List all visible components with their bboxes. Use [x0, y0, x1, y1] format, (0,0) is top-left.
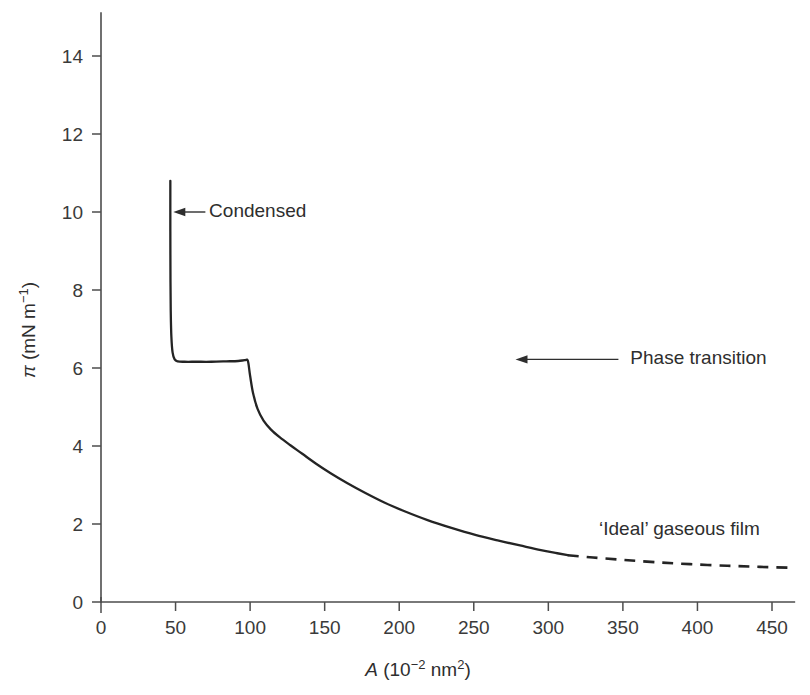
x-axis-tick-label: 350 — [607, 617, 639, 638]
y-axis-tick-label: 12 — [62, 124, 83, 145]
surface-pressure-area-isotherm-chart: 02468101214050100150200250300350400450 C… — [0, 0, 810, 695]
annotation-arrow-head-condensed — [173, 208, 185, 216]
x-axis-tick-label: 150 — [309, 617, 341, 638]
x-axis-tick-label: 400 — [682, 617, 714, 638]
x-axis-tick-label: 450 — [756, 617, 788, 638]
y-axis-tick-label: 10 — [62, 202, 83, 223]
x-axis-tick-label: 0 — [96, 617, 107, 638]
y-axis-tick-label: 0 — [72, 592, 83, 613]
y-axis-tick-label: 6 — [72, 358, 83, 379]
y-axis-tick-label: 4 — [72, 436, 83, 457]
annotations-group: CondensedPhase transition‘Ideal’ gaseous… — [173, 200, 766, 539]
annotation-label-condensed: Condensed — [209, 200, 306, 221]
curve-isotherm-solid — [170, 181, 567, 555]
x-axis-tick-label: 50 — [165, 617, 186, 638]
axes-group — [101, 13, 794, 602]
annotation-label-ideal-gaseous-film: ‘Ideal’ gaseous film — [599, 518, 760, 539]
annotation-arrow-head-phase-transition — [516, 355, 528, 363]
x-axis-tick-label: 250 — [458, 617, 490, 638]
data-curves-group — [170, 181, 791, 568]
x-axis-tick-label: 100 — [234, 617, 266, 638]
figure-root: 02468101214050100150200250300350400450 C… — [0, 0, 810, 695]
x-axis-title: A (10−2 nm2) — [364, 657, 471, 680]
curve-ideal-gaseous-extrapolation — [568, 555, 792, 567]
x-axis-tick-label: 200 — [383, 617, 415, 638]
x-axis-tick-label: 300 — [532, 617, 564, 638]
y-axis-tick-label: 14 — [62, 46, 84, 67]
y-axis-tick-label: 2 — [72, 514, 83, 535]
y-axis-tick-label: 8 — [72, 280, 83, 301]
y-axis-title: π (mN m−1) — [16, 282, 39, 378]
annotation-label-phase-transition: Phase transition — [630, 347, 766, 368]
